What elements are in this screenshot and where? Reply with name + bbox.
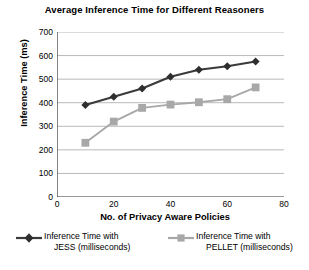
chart-legend: Inference Time with JESS (milliseconds) … (16, 231, 301, 265)
legend-label-pellet: Inference Time with PELLET (milliseconds… (194, 231, 293, 253)
data-point-marker (252, 57, 260, 65)
plot-svg (57, 32, 284, 197)
x-tick-80: 80 (269, 200, 299, 209)
legend-marker-square-icon (168, 232, 194, 244)
legend-label-jess: Inference Time with JESS (milliseconds) (42, 231, 130, 253)
chart-figure: Average Inference Time for Different Rea… (0, 0, 309, 270)
y-tick-700: 700 (25, 28, 53, 36)
data-point-marker (223, 95, 231, 103)
y-tick-100: 100 (25, 169, 53, 177)
y-tick-200: 200 (25, 146, 53, 154)
series-pellet (81, 83, 259, 146)
y-tick-400: 400 (25, 99, 53, 107)
data-point-marker (110, 118, 118, 126)
legend-label-jess-line1: Inference Time with (44, 231, 119, 241)
legend-label-pellet-line1: Inference Time with (196, 231, 271, 241)
x-tick-60: 60 (212, 200, 242, 209)
y-tick-500: 500 (25, 75, 53, 83)
plot-area (57, 32, 284, 197)
y-axis-label: Inference Time (ms) (19, 13, 29, 153)
x-axis-label: No. of Privacy Aware Policies (40, 212, 290, 222)
y-tick-600: 600 (25, 52, 53, 60)
data-point-marker (81, 139, 89, 147)
data-point-marker (138, 85, 146, 93)
data-series-layer (81, 57, 259, 146)
data-point-marker (195, 98, 203, 106)
legend-label-pellet-line2: PELLET (milliseconds) (196, 242, 293, 253)
x-tick-0: 0 (42, 200, 72, 209)
x-axis-tick-labels: 0 20 40 60 80 (57, 200, 284, 212)
legend-item-jess[interactable]: Inference Time with JESS (milliseconds) (16, 231, 168, 253)
x-tick-40: 40 (156, 200, 186, 209)
data-point-marker (81, 101, 89, 109)
data-point-marker (110, 93, 118, 101)
y-tick-300: 300 (25, 122, 53, 130)
data-point-marker (195, 66, 203, 74)
legend-label-jess-line2: JESS (milliseconds) (44, 242, 130, 253)
x-tick-20: 20 (99, 200, 129, 209)
data-point-marker (138, 104, 146, 112)
legend-item-pellet[interactable]: Inference Time with PELLET (milliseconds… (168, 231, 301, 253)
data-point-marker (223, 62, 231, 70)
legend-marker-diamond-icon (16, 232, 42, 244)
data-point-marker (167, 101, 175, 109)
data-point-marker (252, 83, 260, 91)
chart-title: Average Inference Time for Different Rea… (0, 4, 309, 15)
data-point-marker (167, 73, 175, 81)
